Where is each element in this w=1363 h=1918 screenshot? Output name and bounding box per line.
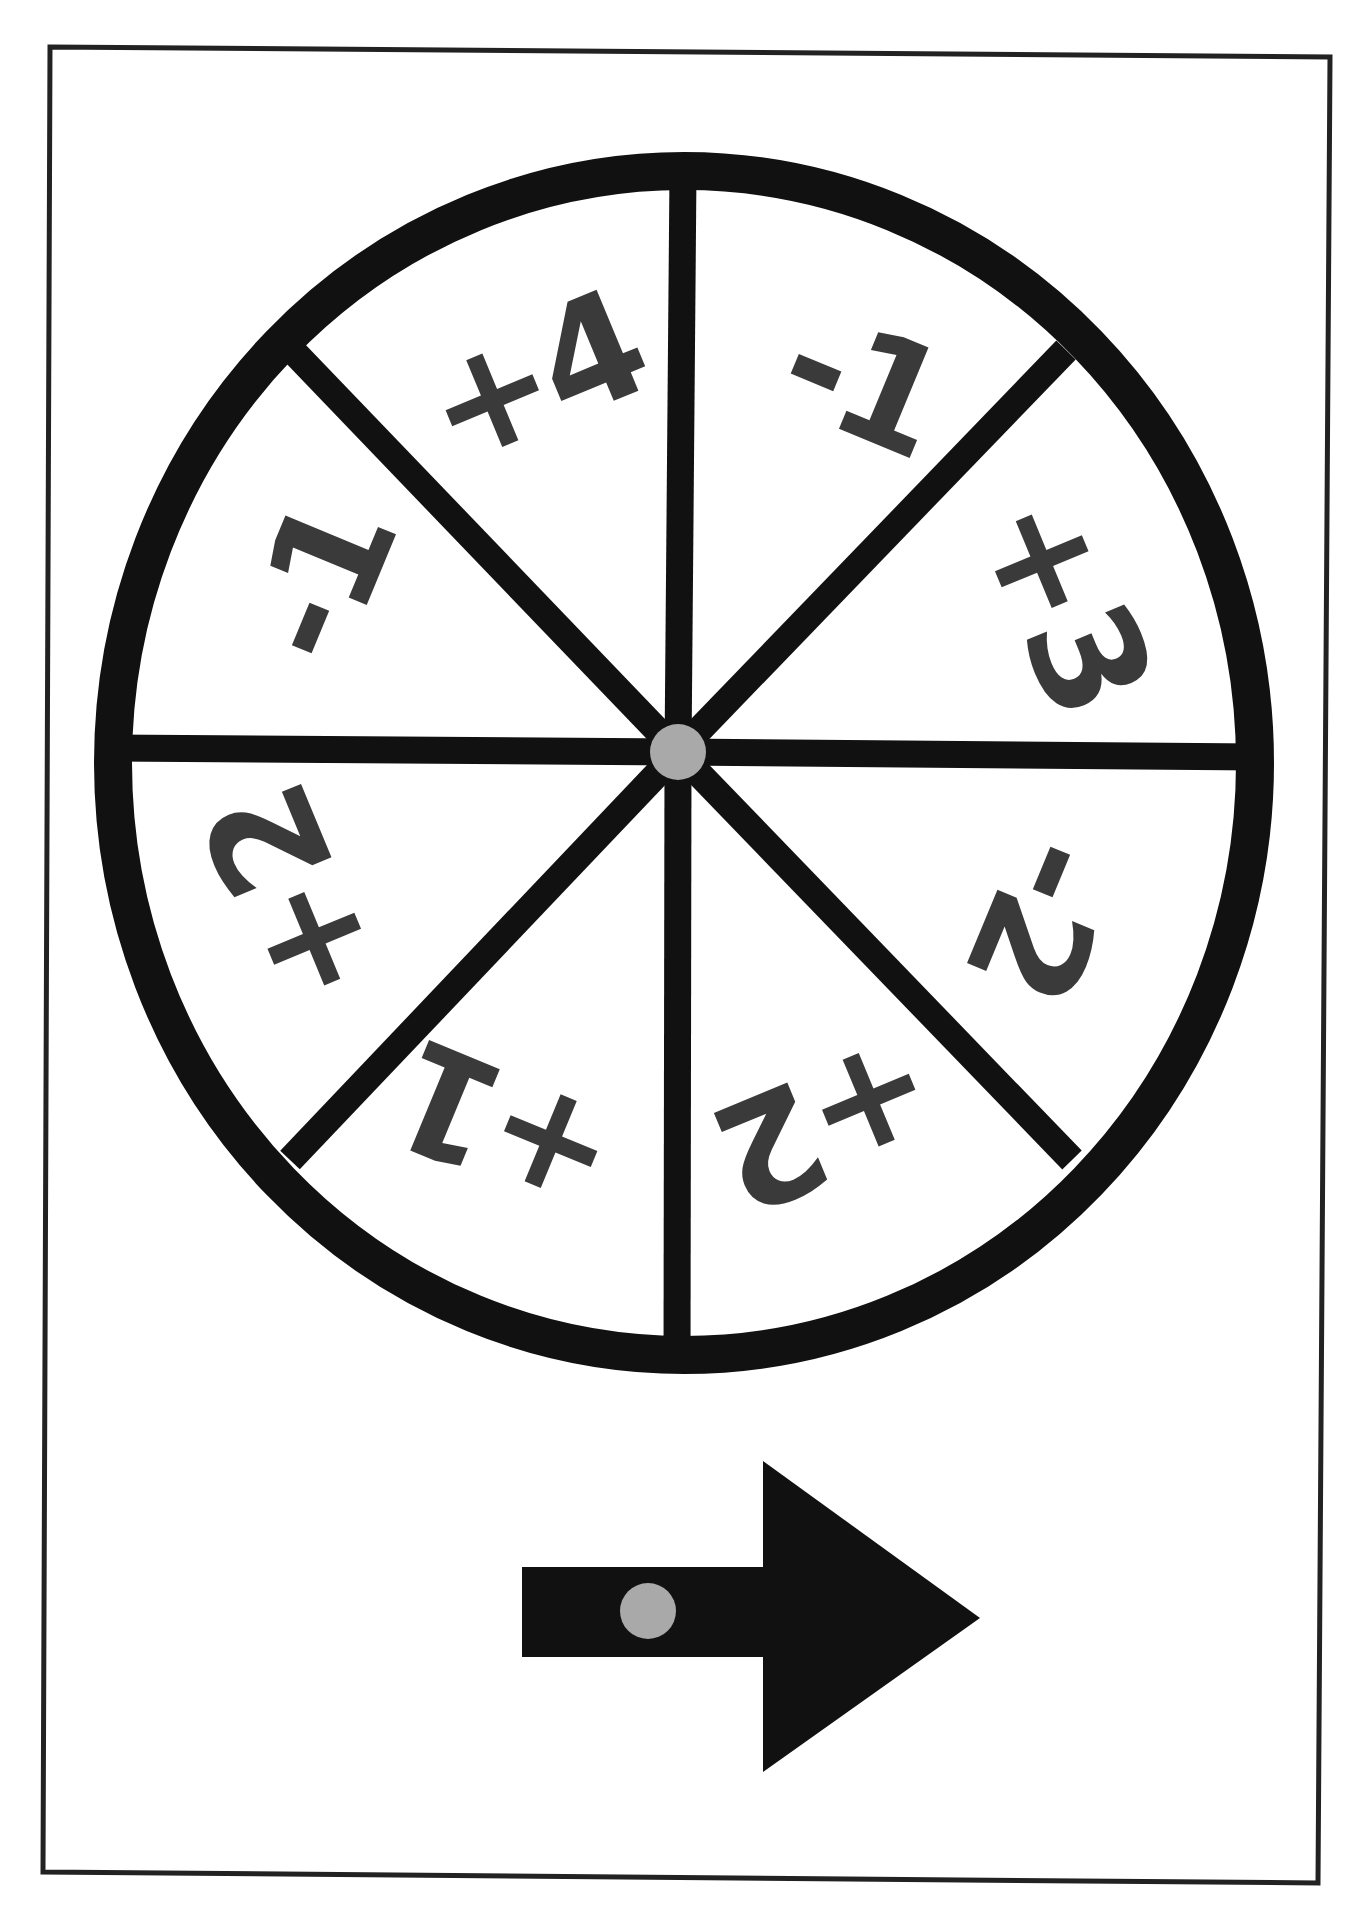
spoke-divider xyxy=(677,752,678,1357)
spoke-divider xyxy=(678,752,1257,757)
spoke-divider xyxy=(678,172,683,752)
spoke-divider xyxy=(112,748,678,752)
spinner-hub xyxy=(650,724,706,780)
spinner-sheet: +4-1+3-2+2+1+2-1 xyxy=(0,0,1363,1918)
arrow-pivot-dot[interactable] xyxy=(620,1583,676,1639)
